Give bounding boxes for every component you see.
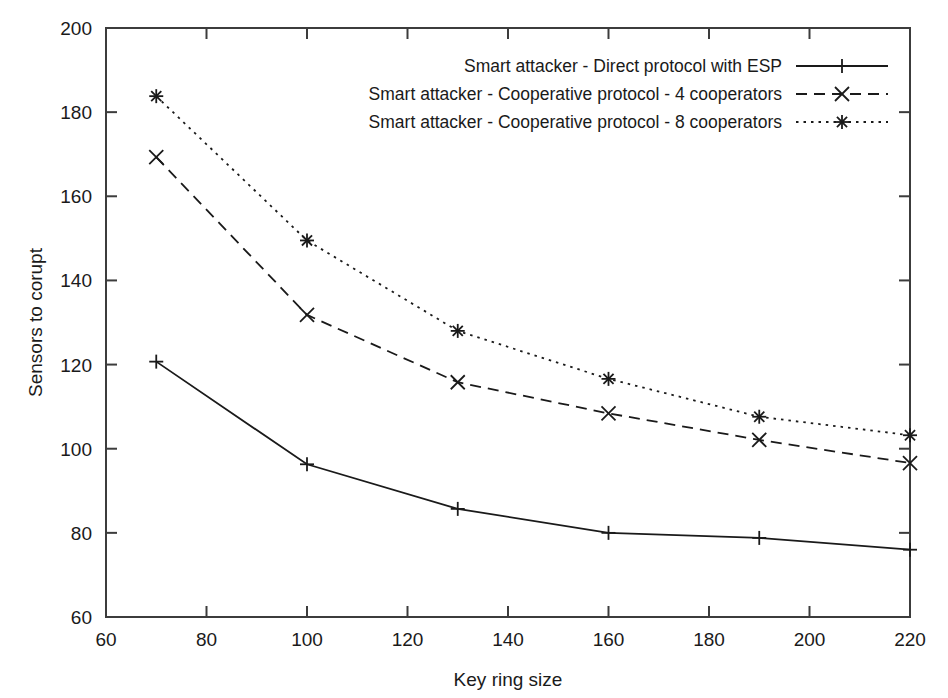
x-axis-tick-label: 140 [492,629,524,650]
y-axis-tick-label: 100 [60,439,92,460]
legend-label-2: Smart attacker - Cooperative protocol - … [369,112,783,132]
x-axis-tick-label: 220 [894,629,926,650]
x-axis-tick-label: 200 [794,629,826,650]
line-chart: 6080100120140160180200608010012014016018… [0,0,948,698]
y-axis-tick-label: 120 [60,355,92,376]
series-line-0 [156,362,910,550]
x-axis-tick-label: 100 [291,629,323,650]
series-line-2 [156,96,910,435]
x-axis-tick-label: 120 [392,629,424,650]
series-line-1 [156,157,910,463]
y-axis-tick-label: 140 [60,270,92,291]
legend-label-1: Smart attacker - Cooperative protocol - … [369,84,783,104]
x-axis-tick-label: 60 [95,629,116,650]
x-axis-tick-label: 160 [593,629,625,650]
x-axis-tick-label: 180 [693,629,725,650]
y-axis-tick-label: 200 [60,18,92,39]
y-axis-tick-label: 180 [60,102,92,123]
x-axis-tick-label: 80 [196,629,217,650]
chart-container: 6080100120140160180200608010012014016018… [0,0,948,698]
y-axis-title: Sensors to corupt [25,247,46,397]
y-axis-tick-label: 160 [60,186,92,207]
legend-label-0: Smart attacker - Direct protocol with ES… [464,56,782,76]
x-axis-title: Key ring size [454,669,563,690]
y-axis-tick-label: 60 [71,607,92,628]
y-axis-tick-label: 80 [71,523,92,544]
